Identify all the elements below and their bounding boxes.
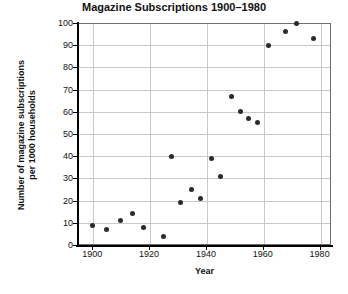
y-axis-tick-label: 30 <box>42 174 73 183</box>
gridline-horizontal <box>79 223 330 224</box>
data-point <box>209 156 214 161</box>
x-axis-tick-label: 1900 <box>72 250 112 259</box>
gridline-vertical <box>93 24 94 244</box>
y-axis-label: Number of magazine subscriptions per 100… <box>16 15 38 255</box>
x-axis-tick-label: 1960 <box>243 250 283 259</box>
data-point <box>130 211 135 216</box>
x-axis-tick-label: 1980 <box>300 250 340 259</box>
gridline-vertical <box>150 24 151 244</box>
y-axis-tick-mark <box>73 67 78 68</box>
y-axis-tick-label: 70 <box>42 86 73 95</box>
y-axis-tick-label: 50 <box>42 130 73 139</box>
y-axis-tick-mark <box>73 245 78 246</box>
data-point <box>266 43 271 48</box>
y-axis-tick-label: 40 <box>42 152 73 161</box>
gridline-horizontal <box>79 178 330 179</box>
y-axis-tick-mark <box>73 156 78 157</box>
x-axis-tick-mark <box>320 245 321 250</box>
gridline-horizontal <box>79 201 330 202</box>
y-axis-tick-mark <box>73 223 78 224</box>
gridline-vertical <box>207 24 208 244</box>
y-axis-tick-label: 100 <box>42 19 73 28</box>
x-axis-tick-mark <box>263 245 264 250</box>
y-axis-tick-label: 0 <box>42 241 73 250</box>
y-axis-tick-label: 60 <box>42 108 73 117</box>
y-axis-tick-label: 90 <box>42 41 73 50</box>
y-axis-tick-label: 80 <box>42 63 73 72</box>
y-axis-tick-mark <box>73 23 78 24</box>
x-axis-line <box>76 245 333 247</box>
y-axis-tick-mark <box>73 201 78 202</box>
x-axis-tick-mark <box>92 245 93 250</box>
scatter-chart: Magazine Subscriptions 1900–1980 0102030… <box>0 0 348 294</box>
gridline-horizontal <box>79 156 330 157</box>
chart-title: Magazine Subscriptions 1900–1980 <box>0 1 348 13</box>
x-axis-tick-mark <box>149 245 150 250</box>
y-axis-tick-mark <box>73 134 78 135</box>
data-point <box>229 94 234 99</box>
plot-area <box>78 23 331 245</box>
y-axis-tick-mark <box>73 45 78 46</box>
data-point <box>246 116 251 121</box>
x-axis-tick-label: 1940 <box>186 250 226 259</box>
x-axis-tick-mark <box>206 245 207 250</box>
gridline-horizontal <box>79 45 330 46</box>
data-point <box>218 174 223 179</box>
gridline-vertical <box>321 24 322 244</box>
y-axis-label-line-2: per 1000 households <box>27 15 38 255</box>
y-axis-tick-label: 20 <box>42 197 73 206</box>
data-point <box>294 21 299 26</box>
gridline-horizontal <box>79 67 330 68</box>
data-point <box>161 234 166 239</box>
gridline-horizontal <box>79 90 330 91</box>
y-axis-label-line-1: Number of magazine subscriptions <box>16 15 27 255</box>
data-point <box>104 227 109 232</box>
data-point <box>238 109 243 114</box>
x-axis-tick-label: 1920 <box>129 250 169 259</box>
data-point <box>141 225 146 230</box>
gridline-horizontal <box>79 112 330 113</box>
x-axis-label: Year <box>78 266 331 276</box>
data-point <box>90 223 95 228</box>
y-axis-tick-label: 10 <box>42 219 73 228</box>
gridline-horizontal <box>79 134 330 135</box>
y-axis-tick-mark <box>73 90 78 91</box>
data-point <box>198 196 203 201</box>
y-axis-tick-mark <box>73 178 78 179</box>
gridline-vertical <box>264 24 265 244</box>
y-axis-tick-mark <box>73 112 78 113</box>
